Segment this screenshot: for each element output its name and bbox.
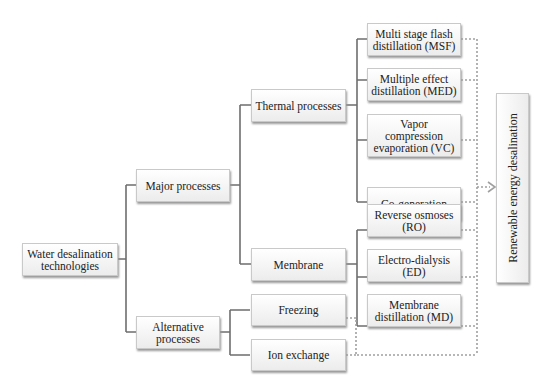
freezing-node: Freezing [251, 294, 346, 326]
connector-lines [0, 0, 549, 390]
msf-node: Multi stage flash distillation (MSF) [367, 23, 461, 56]
med-node: Multiple effect distillation (MED) [367, 68, 461, 101]
ed-node: Electro-dialysis (ED) [367, 249, 461, 282]
ro-node: Reverse osmoses (RO) [367, 204, 461, 237]
root-node: Water desalination technologies [22, 243, 118, 276]
major-processes-node: Major processes [136, 169, 230, 202]
ion-exchange-node: Ion exchange [251, 339, 346, 371]
md-node: Membrane distillation (MD) [367, 294, 461, 327]
renewable-energy-node: Renewable energy desalination [496, 93, 529, 283]
alternative-processes-node: Alternative processes [136, 316, 220, 349]
membrane-node: Membrane [251, 248, 346, 281]
renewable-energy-label: Renewable energy desalination [505, 113, 520, 263]
thermal-processes-node: Thermal processes [251, 89, 346, 122]
vc-node: Vapor compression evaporation (VC) [367, 114, 461, 157]
